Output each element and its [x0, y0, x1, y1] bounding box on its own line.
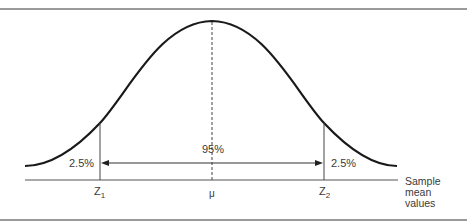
z1-main: Z [94, 185, 101, 197]
z2-subscript: 2 [326, 191, 330, 200]
x-axis-title-line-3: values [405, 198, 441, 209]
arrow-right-head-icon [315, 160, 323, 166]
frame-bottom-border [0, 219, 467, 221]
z2-marker-label: Z2 [319, 186, 330, 197]
z1-marker-label: Z1 [94, 186, 105, 197]
mu-marker-label: μ [209, 189, 215, 199]
center-area-label: 95% [202, 144, 224, 155]
z1-subscript: 1 [101, 191, 105, 200]
arrow-left-head-icon [101, 160, 109, 166]
z2-main: Z [319, 185, 326, 197]
normal-curve-diagram [0, 0, 467, 222]
right-tail-label: 2.5% [331, 158, 356, 169]
left-tail-label: 2.5% [69, 158, 94, 169]
x-axis-title: Sample mean values [405, 176, 441, 209]
